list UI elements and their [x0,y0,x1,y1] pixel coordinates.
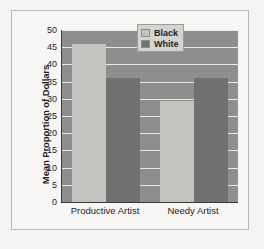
y-axis-tick-label: 20 [36,128,57,138]
y-axis-tick-label: 25 [36,111,57,121]
bar [106,78,140,202]
y-axis-tick-label: 15 [36,145,57,155]
x-axis-tick-label: Productive Artist [71,205,140,216]
y-axis-tick-labels: 05101520253035404550 [36,30,57,202]
legend-label: Black [154,28,178,38]
x-axis-tick-labels: Productive ArtistNeedy Artist [61,205,237,221]
legend-item: Black [141,27,179,38]
y-axis-tick-label: 30 [36,94,57,104]
figure-root: Mean Proportion of Dollars 0510152025303… [0,0,264,249]
chart-legend: BlackWhite [137,24,184,52]
bar [160,101,194,202]
bar [194,78,228,202]
y-axis-tick-label: 40 [36,59,57,69]
y-axis-tick-label: 10 [36,163,57,173]
y-axis-tick-label: 50 [36,25,57,35]
chart-frame: Mean Proportion of Dollars 0510152025303… [11,10,249,230]
plot-area [61,30,238,203]
x-axis-tick-label: Needy Artist [167,205,218,216]
y-axis-tick-label: 0 [36,197,57,207]
y-axis-tick-label: 45 [36,42,57,52]
legend-swatch-icon [141,29,150,37]
legend-item: White [141,38,179,49]
y-axis-tick-label: 35 [36,77,57,87]
legend-label: White [154,39,179,49]
bar [72,44,106,202]
y-axis-tick-label: 5 [36,180,57,190]
legend-swatch-icon [141,40,150,48]
